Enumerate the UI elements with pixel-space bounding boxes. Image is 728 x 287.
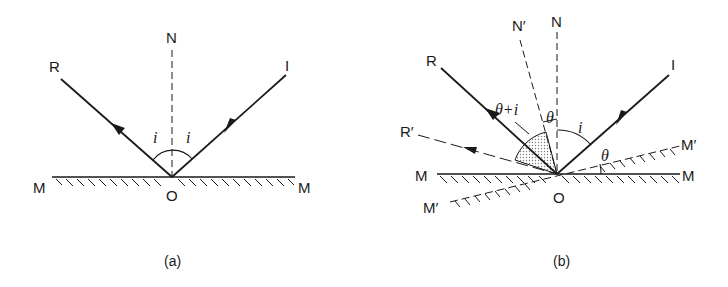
label-m-prime-left: M′ xyxy=(423,199,438,216)
label-o: O xyxy=(553,189,565,206)
label-m-prime-right: M′ xyxy=(681,136,696,153)
reflected-ray xyxy=(441,68,557,174)
angle-i-arc xyxy=(557,130,591,145)
label-theta-mirror: θ xyxy=(601,147,609,164)
label-m-left: M xyxy=(415,167,428,184)
panel-a: N R I i i M M O (a) xyxy=(33,29,311,269)
label-r: R xyxy=(426,52,437,69)
rotated-reflected-arrow-icon xyxy=(463,147,477,154)
label-i-ray: I xyxy=(671,56,675,73)
label-r-prime: R′ xyxy=(400,123,414,140)
incident-arrow-icon xyxy=(616,110,627,125)
reflection-diagram: N R I i i M M O (a) xyxy=(0,0,728,287)
label-n: N xyxy=(166,29,177,46)
label-theta-normal: θ xyxy=(546,109,554,126)
caption-a: (a) xyxy=(164,253,181,269)
label-r: R xyxy=(49,58,60,75)
label-angle-right: i xyxy=(186,129,190,146)
angle-theta-arc xyxy=(600,164,601,174)
label-n: N xyxy=(551,13,562,30)
panel-b: N N′ R R′ I θ+i θ i θ M M M′ M′ O (b) xyxy=(400,13,696,269)
label-m-right: M xyxy=(298,179,311,196)
incident-arrow-icon xyxy=(224,118,236,133)
angle-pointer xyxy=(515,122,529,134)
label-angle-i: i xyxy=(578,119,582,136)
incident-ray xyxy=(557,75,669,174)
label-i-ray: I xyxy=(285,57,289,74)
mirror-hatching xyxy=(56,179,294,186)
caption-b: (b) xyxy=(553,253,570,269)
mirror-hatching xyxy=(440,176,679,183)
label-m-right: M xyxy=(682,167,695,184)
label-n-prime: N′ xyxy=(512,17,526,34)
label-angle-left: i xyxy=(153,129,157,146)
label-theta-plus-i: θ+i xyxy=(495,101,518,118)
label-m-left: M xyxy=(33,179,46,196)
rotated-mirror-hatching xyxy=(455,149,675,207)
label-o: O xyxy=(166,187,178,204)
